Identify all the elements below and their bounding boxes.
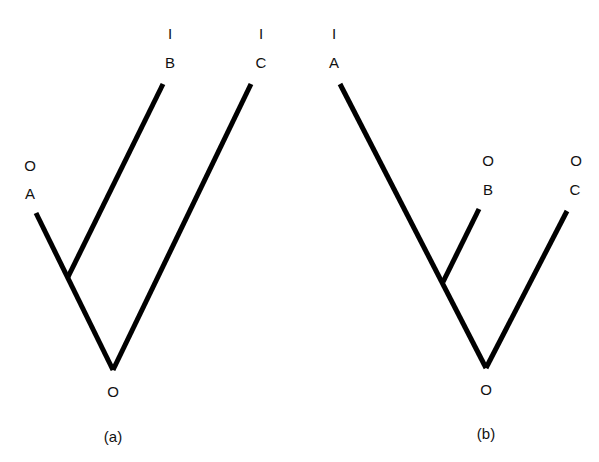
panel-b-taxon-c-state: O (570, 152, 582, 169)
panel-b-taxon-b-name: B (483, 181, 493, 198)
panel-b-branch-a (340, 84, 486, 368)
panel-b-root-label: O (480, 381, 492, 398)
panel-a-taxon-a-name: A (25, 185, 35, 202)
panel-a-branch-b (68, 84, 163, 277)
panel-b-taxon-c-name: C (570, 181, 581, 198)
panel-a: I B I C O A O (a) (24, 25, 266, 445)
panel-a-taxon-b-state: I (168, 25, 172, 42)
panel-a-caption: (a) (104, 428, 122, 445)
panel-a-branch-c (113, 84, 251, 370)
panel-b-taxon-b-state: O (482, 152, 494, 169)
panel-b-branch-b (443, 209, 479, 282)
panel-a-taxon-a-state: O (24, 157, 36, 174)
panel-a-taxon-c-name: C (256, 54, 267, 71)
panel-a-taxon-b-name: B (165, 54, 175, 71)
panel-a-root-label: O (107, 383, 119, 400)
panel-b-taxon-a-name: A (329, 54, 339, 71)
cladogram-figure: I B I C O A O (a) I A O B O C O (b) (0, 0, 599, 462)
panel-b: I A O B O C O (b) (329, 25, 582, 442)
panel-b-taxon-a-state: I (332, 25, 336, 42)
panel-a-taxon-c-state: I (259, 25, 263, 42)
panel-b-caption: (b) (477, 425, 495, 442)
panel-b-branch-c (486, 211, 567, 368)
panel-a-branch-a (36, 213, 113, 370)
